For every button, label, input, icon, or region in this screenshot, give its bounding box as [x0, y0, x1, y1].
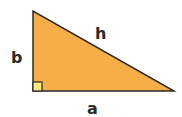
right-angle-marker: [33, 82, 42, 91]
triangle: [33, 11, 174, 91]
label-h: h: [95, 24, 106, 43]
label-b: b: [11, 48, 22, 67]
label-a: a: [87, 99, 98, 117]
right-triangle-diagram: b h a: [0, 0, 182, 117]
